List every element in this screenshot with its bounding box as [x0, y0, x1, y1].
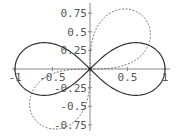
y-tick-label: 0.5: [67, 26, 87, 39]
y-tick-label: -0.75: [54, 119, 87, 132]
y-tick-label: -0.25: [54, 82, 87, 95]
chart: -1-0.50.510.750.50.25-0.25-0.5-0.75: [0, 0, 183, 136]
y-tick-label: 0.25: [61, 44, 88, 57]
y-tick-label: -0.5: [61, 100, 88, 113]
axes: [12, 3, 170, 131]
y-tick-label: 0.75: [61, 7, 88, 20]
x-tick-label: -1: [8, 71, 21, 84]
x-tick-label: 0.5: [118, 71, 138, 84]
x-tick-label: 1: [162, 71, 169, 84]
origin-point: [88, 67, 91, 70]
